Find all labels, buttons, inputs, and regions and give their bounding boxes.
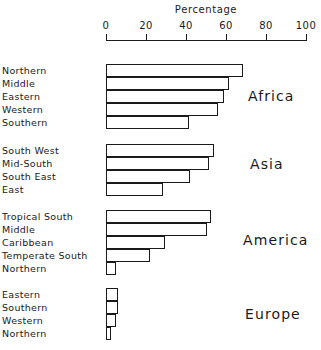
category-label-wrap: Eastern (10, 288, 102, 301)
group-name-europe: Europe (245, 306, 301, 322)
bar (106, 103, 218, 116)
category-label-wrap: East (10, 183, 102, 196)
category-label: Southern (2, 301, 102, 314)
category-label-wrap: Southern (10, 301, 102, 314)
category-label: South West (2, 144, 102, 157)
chart-row: Northern (0, 327, 321, 340)
category-label-wrap: Western (10, 103, 102, 116)
bar (106, 183, 163, 196)
category-label: Tropical South (2, 210, 102, 223)
category-label-wrap: Northern (10, 262, 102, 275)
category-label-wrap: Caribbean (10, 236, 102, 249)
chart-row: East (0, 183, 321, 196)
category-label: Southern (2, 116, 102, 129)
category-label-wrap: Temperate South (10, 249, 102, 262)
x-axis-tick-labels: 020406080100 (0, 20, 321, 34)
category-label: Eastern (2, 90, 102, 103)
bar (106, 210, 211, 223)
category-label: Northern (2, 262, 102, 275)
bar (106, 249, 150, 262)
bar (106, 301, 118, 314)
bar (106, 223, 207, 236)
category-label-wrap: Western (10, 314, 102, 327)
category-label: Mid-South (2, 157, 102, 170)
category-label-wrap: South East (10, 170, 102, 183)
bar (106, 288, 118, 301)
percentage-bar-chart: Percentage 020406080100 NorthernMiddleEa… (0, 0, 321, 350)
chart-row: Northern (0, 262, 321, 275)
category-label-wrap: Tropical South (10, 210, 102, 223)
category-label: Northern (2, 64, 102, 77)
group-name-asia: Asia (250, 156, 284, 172)
category-label-wrap: Eastern (10, 90, 102, 103)
chart-row: Western (0, 103, 321, 116)
x-tick-label-20: 20 (139, 20, 153, 31)
x-tick-label-80: 80 (259, 20, 273, 31)
category-label-wrap: Northern (10, 327, 102, 340)
category-label-wrap: Middle (10, 223, 102, 236)
x-tick-label-60: 60 (219, 20, 233, 31)
category-label-wrap: South West (10, 144, 102, 157)
bar (106, 116, 189, 129)
bar (106, 236, 165, 249)
group-name-africa: Africa (248, 88, 295, 104)
category-label-wrap: Southern (10, 116, 102, 129)
chart-row: Southern (0, 116, 321, 129)
category-label: Western (2, 314, 102, 327)
category-label: Western (2, 103, 102, 116)
bar (106, 262, 116, 275)
x-tick-label-100: 100 (296, 20, 316, 31)
bar (106, 314, 116, 327)
category-label: Middle (2, 223, 102, 236)
bar (106, 157, 209, 170)
chart-row: Northern (0, 64, 321, 77)
bar (106, 327, 111, 340)
chart-row: Tropical South (0, 210, 321, 223)
category-label-wrap: Mid-South (10, 157, 102, 170)
category-label: South East (2, 170, 102, 183)
bar (106, 77, 229, 90)
category-label: Middle (2, 77, 102, 90)
chart-row: Temperate South (0, 249, 321, 262)
bar (106, 64, 243, 77)
group-name-america: America (243, 232, 308, 248)
category-label-wrap: Middle (10, 77, 102, 90)
chart-row: Eastern (0, 288, 321, 301)
bar (106, 90, 224, 103)
category-label: Caribbean (2, 236, 102, 249)
category-label: Eastern (2, 288, 102, 301)
category-label: Northern (2, 327, 102, 340)
x-tick-label-40: 40 (179, 20, 193, 31)
chart-axis-title: Percentage (106, 4, 306, 15)
x-tick-label-0: 0 (103, 20, 110, 31)
x-tick-mark-100 (306, 34, 307, 41)
bar (106, 144, 214, 157)
bar (106, 170, 190, 183)
category-label: East (2, 183, 102, 196)
category-label-wrap: Northern (10, 64, 102, 77)
x-axis-line (106, 40, 306, 41)
category-label: Temperate South (2, 249, 102, 262)
